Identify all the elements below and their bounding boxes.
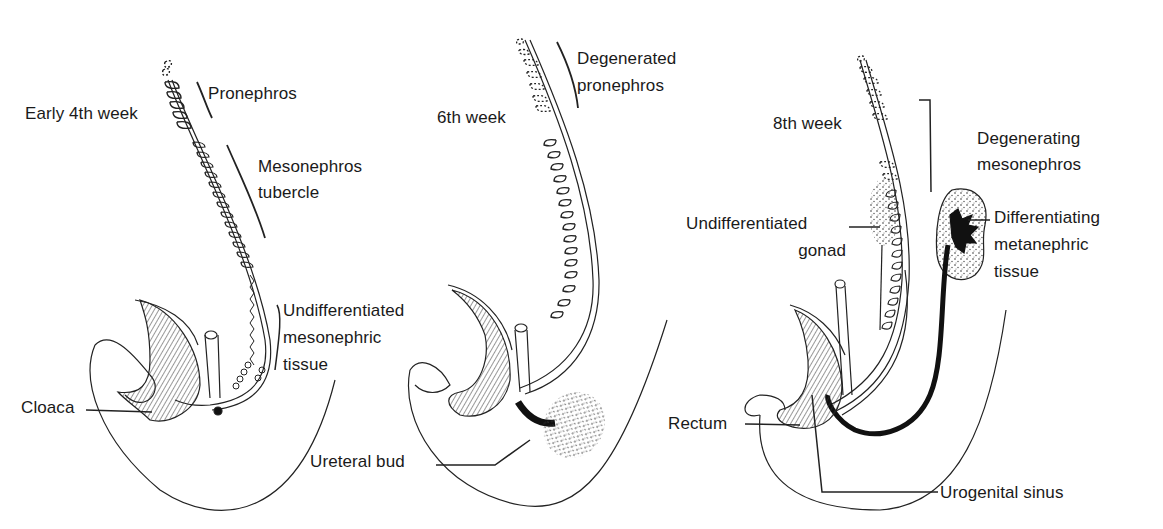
label-degenerated-pronephros-line1: Degenerated bbox=[577, 48, 676, 69]
label-pronephros: Pronephros bbox=[208, 83, 297, 104]
label-undifferentiated-mesonephric-line3: tissue bbox=[283, 354, 328, 375]
label-undifferentiated-mesonephric-line1: Undifferentiated bbox=[283, 300, 404, 321]
label-differentiating-metanephric-line1: Differentiating bbox=[994, 207, 1100, 228]
label-undifferentiated-gonad-line2: gonad bbox=[790, 240, 846, 261]
label-mesonephros-line2: tubercle bbox=[258, 182, 319, 203]
label-degenerated-pronephros-line2: pronephros bbox=[577, 75, 664, 96]
label-urogenital-sinus: Urogenital sinus bbox=[940, 482, 1064, 503]
title-8th-week: 8th week bbox=[773, 113, 842, 134]
label-degenerating-mesonephros-line2: mesonephros bbox=[977, 154, 1081, 175]
label-cloaca: Cloaca bbox=[21, 397, 75, 418]
label-differentiating-metanephric-line3: tissue bbox=[994, 261, 1039, 282]
label-undifferentiated-mesonephric-line2: mesonephric bbox=[283, 327, 381, 348]
panel-early-4th-week bbox=[86, 61, 335, 511]
label-undifferentiated-gonad-line1: Undifferentiated bbox=[686, 213, 807, 234]
title-6th-week: 6th week bbox=[437, 107, 506, 128]
label-rectum: Rectum bbox=[668, 413, 727, 434]
label-mesonephros-line1: Mesonephros bbox=[258, 156, 362, 177]
label-differentiating-metanephric-line2: metanephric bbox=[994, 234, 1089, 255]
title-early-4th-week: Early 4th week bbox=[25, 103, 138, 124]
label-degenerating-mesonephros-line1: Degenerating bbox=[977, 128, 1080, 149]
label-ureteral-bud: Ureteral bud bbox=[310, 451, 405, 472]
